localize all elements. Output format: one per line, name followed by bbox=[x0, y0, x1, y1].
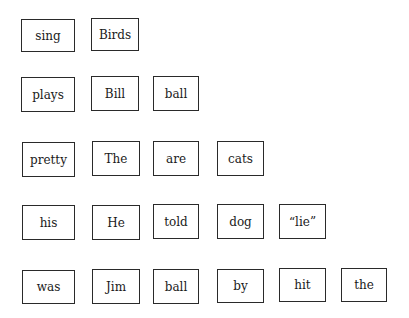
word-card: The bbox=[92, 141, 140, 176]
word-card: Jim bbox=[92, 269, 140, 304]
word-card: ball bbox=[153, 76, 199, 111]
word-card: sing bbox=[21, 19, 75, 52]
word-card: cats bbox=[217, 141, 264, 176]
word-card: was bbox=[22, 270, 75, 304]
word-card: Bill bbox=[91, 76, 139, 111]
word-card: are bbox=[153, 141, 199, 176]
word-card: He bbox=[92, 205, 140, 240]
word-card: hit bbox=[279, 268, 326, 302]
word-card: by bbox=[217, 269, 264, 303]
word-card: plays bbox=[21, 77, 75, 112]
word-card: “lie” bbox=[279, 204, 326, 239]
word-card: dog bbox=[217, 204, 264, 239]
word-card: told bbox=[153, 204, 199, 239]
word-card: ball bbox=[153, 269, 199, 304]
word-card: Birds bbox=[91, 18, 139, 51]
word-card: the bbox=[341, 268, 387, 302]
word-card: pretty bbox=[22, 142, 75, 177]
word-card: his bbox=[22, 205, 75, 240]
